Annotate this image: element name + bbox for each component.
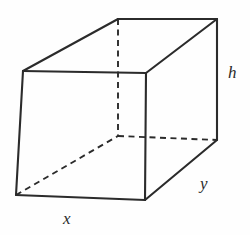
box-figure-container: h y x xyxy=(0,0,250,235)
dashed-edge-group xyxy=(16,19,217,195)
top-right-receding-edge xyxy=(146,19,217,73)
hidden-back-bottom-edge xyxy=(118,136,217,140)
rectangular-box-diagram xyxy=(0,0,250,235)
height-label-h: h xyxy=(228,64,237,81)
top-left-receding-edge xyxy=(23,19,118,71)
width-label-x: x xyxy=(63,210,71,227)
front-bottom-edge xyxy=(16,195,145,200)
front-left-edge xyxy=(16,71,23,195)
solid-edge-group xyxy=(16,19,217,200)
hidden-bottom-left-receding-edge xyxy=(16,136,118,195)
depth-label-y: y xyxy=(200,175,208,192)
front-top-edge xyxy=(23,71,146,73)
front-right-edge xyxy=(145,73,146,200)
